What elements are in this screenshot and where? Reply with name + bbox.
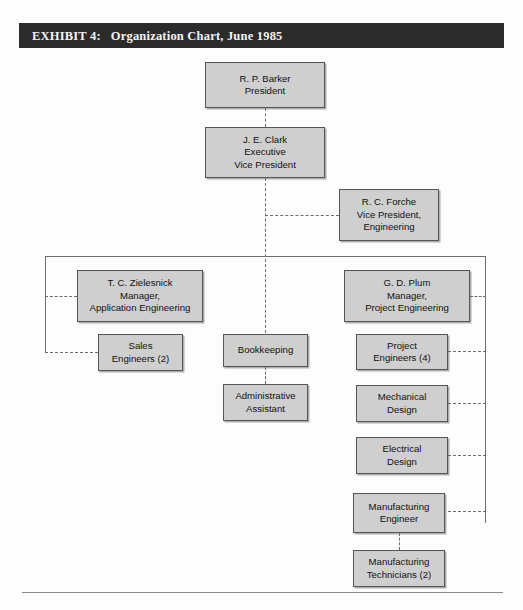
node-plum[interactable]: G. D. Plum Manager, Project Engineering (344, 270, 470, 322)
connector-to-plum (470, 296, 486, 297)
node-bookkeeping-label: Bookkeeping (235, 344, 296, 356)
node-forche-label: R. C. Forche Vice President, Engineering (354, 196, 424, 233)
node-zielesnick-label: T. C. Zielesnick Manager, Application En… (87, 277, 194, 314)
connector-manufacturing-engineer-to-technicians (399, 533, 400, 550)
node-mechanical-design-label: Mechanical Design (375, 391, 430, 416)
node-manufacturing-technicians-label: Manufacturing Technicians (2) (364, 556, 435, 581)
node-sales-engineers[interactable]: Sales Engineers (2) (98, 334, 183, 371)
node-administrative-assistant[interactable]: Administrative Assistant (223, 384, 308, 421)
node-plum-label: G. D. Plum Manager, Project Engineering (362, 277, 452, 314)
connector-to-electrical-design (448, 455, 486, 456)
node-clark[interactable]: J. E. Clark Executive Vice President (205, 127, 325, 178)
node-barker-label: R. P. Barker President (236, 73, 293, 98)
node-barker[interactable]: R. P. Barker President (205, 62, 325, 108)
connector-bookkeeping-to-administrative-assistant (265, 367, 266, 384)
node-project-engineers-label: Project Engineers (4) (370, 340, 434, 365)
organization-chart: R. P. Barker President J. E. Clark Execu… (0, 0, 523, 610)
node-administrative-assistant-label: Administrative Assistant (232, 390, 298, 415)
connector-barker-to-clark (265, 108, 266, 127)
node-manufacturing-technicians[interactable]: Manufacturing Technicians (2) (353, 550, 445, 587)
node-mechanical-design[interactable]: Mechanical Design (356, 385, 448, 422)
node-project-engineers[interactable]: Project Engineers (4) (356, 334, 448, 370)
node-sales-engineers-label: Sales Engineers (2) (109, 340, 173, 365)
node-clark-label: J. E. Clark Executive Vice President (231, 134, 299, 171)
node-forche[interactable]: R. C. Forche Vice President, Engineering (339, 189, 439, 241)
connector-to-manufacturing-engineer (448, 511, 486, 512)
connector-to-mechanical-design (448, 403, 486, 404)
connector-to-sales-engineers (45, 352, 98, 353)
node-bookkeeping[interactable]: Bookkeeping (223, 334, 308, 367)
connector-clark-to-forche (265, 215, 339, 216)
connector-engineering-bus-horizontal (45, 256, 486, 257)
node-electrical-design-label: Electrical Design (380, 443, 425, 468)
footer-divider (22, 592, 503, 593)
node-zielesnick[interactable]: T. C. Zielesnick Manager, Application En… (77, 270, 203, 322)
connector-clark-spine (265, 178, 266, 338)
node-manufacturing-engineer[interactable]: Manufacturing Engineer (353, 493, 445, 533)
exhibit-page: EXHIBIT 4: Organization Chart, June 1985 (0, 0, 523, 610)
node-manufacturing-engineer-label: Manufacturing Engineer (366, 501, 433, 526)
node-electrical-design[interactable]: Electrical Design (356, 437, 448, 474)
connector-to-project-engineers (448, 351, 486, 352)
connector-to-zielesnick (45, 296, 77, 297)
connector-bus-left-drop (45, 256, 46, 353)
